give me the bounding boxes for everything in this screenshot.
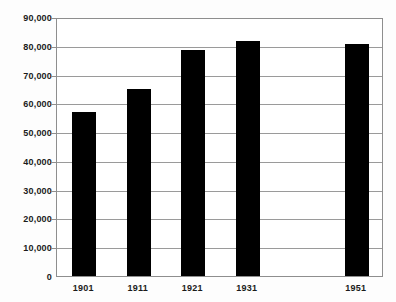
plot-area bbox=[56, 18, 383, 277]
bar bbox=[345, 44, 369, 276]
bar bbox=[181, 50, 205, 276]
x-axis-tick-label: 1931 bbox=[236, 283, 257, 293]
y-axis-tick-label: 50,000 bbox=[0, 128, 52, 138]
gridline bbox=[57, 133, 382, 134]
x-axis-tick-label: 1921 bbox=[182, 283, 203, 293]
x-axis-tick-label: 1901 bbox=[73, 283, 94, 293]
y-axis-tick-label: 30,000 bbox=[0, 186, 52, 196]
y-axis-tick-label: 20,000 bbox=[0, 214, 52, 224]
y-axis-tick-label: 70,000 bbox=[0, 71, 52, 81]
gridline bbox=[57, 248, 382, 249]
bar bbox=[72, 112, 96, 276]
bar bbox=[236, 41, 260, 276]
gridline bbox=[57, 47, 382, 48]
x-axis-tick-label: 1911 bbox=[128, 283, 148, 293]
y-axis-tick-label: 40,000 bbox=[0, 157, 52, 167]
bar-chart: 90,00080,00070,00060,00050,00040,00030,0… bbox=[0, 0, 396, 302]
y-axis-tick-label: 10,000 bbox=[0, 243, 52, 253]
gridline bbox=[57, 76, 382, 77]
gridline bbox=[57, 162, 382, 163]
gridline bbox=[57, 219, 382, 220]
y-axis-tick-label: 90,000 bbox=[0, 13, 52, 23]
y-axis-tick-label: 0 bbox=[0, 272, 52, 282]
bar bbox=[127, 89, 151, 276]
x-axis-tick-label: 1951 bbox=[345, 283, 366, 293]
gridline bbox=[57, 104, 382, 105]
y-axis-tick-label: 80,000 bbox=[0, 42, 52, 52]
gridline bbox=[57, 191, 382, 192]
y-axis-tick-label: 60,000 bbox=[0, 99, 52, 109]
